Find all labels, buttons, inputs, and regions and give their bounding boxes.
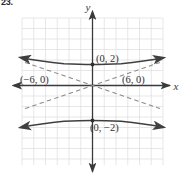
figure-page: 23.: [0, 0, 183, 178]
y-axis-label: y: [85, 1, 91, 13]
lower-vertex-label: (0, −2): [90, 122, 119, 134]
upper-vertex-label: (0, 2): [96, 53, 119, 65]
upper-vertex-point: [91, 63, 95, 67]
x-axis-label: x: [173, 80, 179, 92]
right-asymptote-label: (6, 0): [122, 74, 145, 86]
left-asymptote-label: (−6, 0): [20, 74, 49, 86]
hyperbola-figure: y x (0, 2) (6, 0) (−6, 0) (0, −2): [0, 0, 183, 178]
